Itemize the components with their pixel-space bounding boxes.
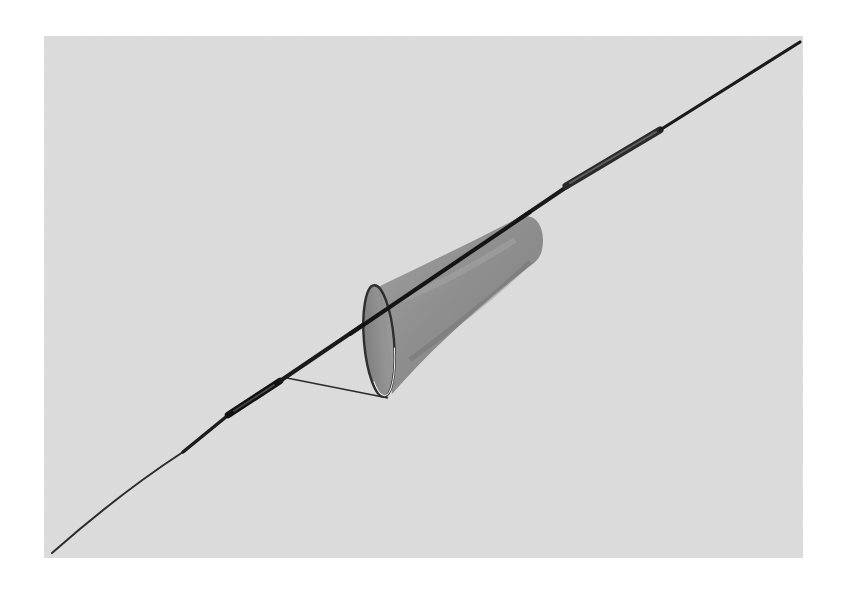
pole-lower-tip [52,452,183,553]
pole-lower-section [183,412,232,452]
pole-upper-ferrule-highlight [570,132,656,183]
net-mesh-bag [378,216,543,394]
net-photo-scene [0,0,844,592]
pole-lower-ferrule-highlight [234,385,274,411]
pole-upper-tip [660,42,800,130]
